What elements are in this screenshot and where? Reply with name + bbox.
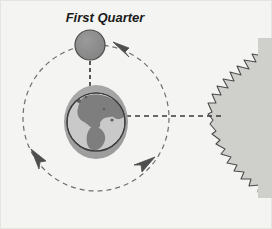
earth (64, 85, 128, 159)
island-speck-b (85, 96, 88, 99)
island-speck-c (110, 118, 113, 121)
sun-body (258, 38, 272, 198)
diagram-canvas: First Quarter (0, 0, 272, 229)
page-title: First Quarter (66, 10, 146, 25)
island-speck-d (103, 108, 106, 111)
moon-phase-diagram: First Quarter (0, 0, 272, 229)
moon (75, 30, 105, 60)
